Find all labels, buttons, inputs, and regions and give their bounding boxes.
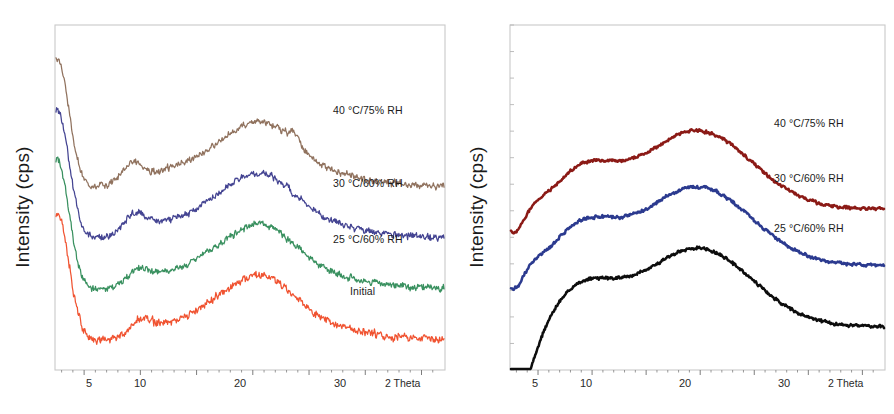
plot-frame-left bbox=[55, 25, 445, 370]
x-tick-5-right: 5 bbox=[532, 377, 538, 389]
curve-label-initial-left: Initial bbox=[350, 285, 375, 297]
curve-label-40c75rh-right: 40 °C/75% RH bbox=[774, 117, 844, 129]
y-axis-label-right: Intensity (cps) bbox=[454, 0, 500, 414]
x-tick-30-right: 30 bbox=[778, 377, 790, 389]
plot-svg-left bbox=[48, 0, 452, 414]
x-tick-10-right: 10 bbox=[580, 377, 592, 389]
plot-area-left bbox=[48, 0, 452, 414]
curve-label-25c60rh-right: 25 °C/60% RH bbox=[774, 222, 844, 234]
plot-area-right bbox=[504, 0, 894, 414]
y-axis-label-left: Intensity (cps) bbox=[0, 0, 46, 414]
xrd-figure: Intensity (cps) 40 °C/75% RH 30 °C/60% R… bbox=[0, 0, 894, 414]
curve-label-30c60rh-right: 30 °C/60% RH bbox=[774, 172, 844, 184]
plot-frame-right bbox=[510, 25, 885, 370]
xrd-panel-left: Intensity (cps) 40 °C/75% RH 30 °C/60% R… bbox=[0, 0, 452, 414]
plot-svg-right bbox=[504, 0, 894, 414]
curve-label-40c75rh-left: 40 °C/75% RH bbox=[333, 104, 403, 116]
x-tick-5-left: 5 bbox=[86, 377, 92, 389]
x-axis-name-left: 2 Theta bbox=[385, 377, 420, 389]
x-tick-20-left: 20 bbox=[234, 377, 246, 389]
curve-label-30c60rh-left: 30 °C/60% RH bbox=[333, 177, 403, 189]
curve-label-25c60rh-left: 25 °C/60% RH bbox=[333, 233, 403, 245]
x-tick-10-left: 10 bbox=[134, 377, 146, 389]
x-axis-ticks-left bbox=[62, 370, 433, 375]
x-tick-30-left: 30 bbox=[334, 377, 346, 389]
xrd-panel-right: Intensity (cps) 40 °C/75% RH 30 °C/60% R… bbox=[452, 0, 894, 414]
x-axis-name-right: 2 Theta bbox=[828, 377, 863, 389]
x-tick-20-right: 20 bbox=[679, 377, 691, 389]
x-axis-ticks-right bbox=[516, 370, 873, 375]
